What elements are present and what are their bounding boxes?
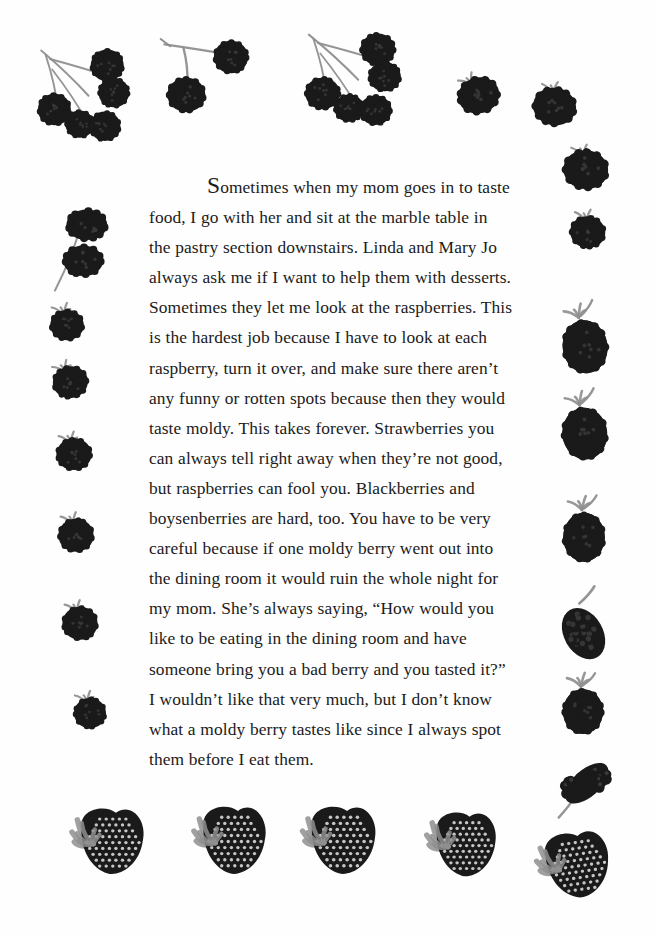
berry-left-6-icon [58, 598, 102, 644]
berry-left-2-icon [46, 302, 88, 344]
berry-right-3-icon [552, 385, 616, 466]
body-paragraph: Sometimes when my mom goes in to taste f… [149, 172, 513, 774]
berry-top-right-c-icon [556, 138, 616, 197]
berry-left-3-icon [45, 355, 96, 406]
berry-bottom-2-icon [190, 806, 270, 880]
berry-left-5-icon [54, 510, 98, 556]
berry-left-7-icon [70, 690, 110, 732]
berry-right-7-icon [540, 749, 628, 828]
berry-bottom-4-icon [424, 812, 500, 882]
berry-right-4-icon [558, 494, 610, 566]
berry-right-6-icon [558, 672, 608, 738]
berry-top-right-b-icon [524, 74, 586, 135]
paragraph-text: ometimes when my mom goes in to taste fo… [149, 177, 512, 769]
berry-left-4-icon [52, 430, 96, 474]
berry-cluster-top-left-icon [28, 38, 138, 143]
berry-bottom-1-icon [68, 808, 148, 880]
berry-bottom-3-icon [298, 806, 380, 880]
berry-top-right-a-icon [446, 62, 509, 124]
page-text-block: Sometimes when my mom goes in to taste f… [149, 172, 513, 774]
berry-sprig-top-center-left-icon [155, 30, 250, 120]
berry-right-5-icon [549, 583, 618, 669]
berry-right-1-icon [563, 205, 613, 255]
berry-bottom-5-icon [529, 827, 618, 909]
berry-right-2-icon [551, 296, 617, 381]
drop-cap: S [207, 172, 220, 198]
berry-cluster-top-center-icon [295, 22, 410, 127]
berry-left-1-icon [52, 205, 112, 295]
book-page: Sometimes when my mom goes in to taste f… [0, 0, 655, 934]
